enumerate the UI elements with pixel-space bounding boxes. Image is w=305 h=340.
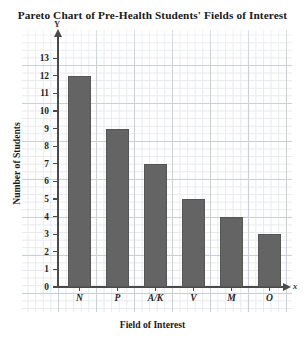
y-tick-mark xyxy=(53,110,58,111)
y-tick-label: 4 xyxy=(0,212,49,222)
x-tick-label: N xyxy=(60,292,100,303)
y-tick-label: 11 xyxy=(0,88,49,98)
bar xyxy=(68,76,91,287)
y-tick-mark xyxy=(53,198,58,199)
y-tick-label: 9 xyxy=(0,124,49,134)
bar xyxy=(106,129,129,287)
x-axis-line xyxy=(57,286,285,288)
x-axis-title: Field of Interest xyxy=(0,319,305,330)
x-tick-label: A/K xyxy=(136,292,176,303)
y-axis-line xyxy=(57,36,59,287)
y-axis-letter: Y xyxy=(54,19,60,29)
chart-figure: Pareto Chart of Pre-Health Students' Fie… xyxy=(0,0,305,340)
y-tick-mark xyxy=(53,269,58,270)
x-axis-arrow-icon xyxy=(283,283,291,291)
x-axis-letter: x xyxy=(293,281,297,291)
y-tick-mark xyxy=(53,163,58,164)
y-tick-label: 8 xyxy=(0,141,49,151)
y-tick-label: 3 xyxy=(0,229,49,239)
y-axis-arrow-icon xyxy=(54,29,62,37)
y-tick-mark xyxy=(53,93,58,94)
y-tick-label: 6 xyxy=(0,176,49,186)
bar xyxy=(258,234,281,287)
y-tick-mark xyxy=(53,286,58,287)
y-tick-label: 13 xyxy=(0,53,49,63)
y-tick-label: 12 xyxy=(0,71,49,81)
y-tick-mark xyxy=(53,251,58,252)
y-tick-mark xyxy=(53,181,58,182)
y-axis-title: Number of Students xyxy=(11,104,22,224)
y-tick-mark xyxy=(53,216,58,217)
y-tick-mark xyxy=(53,58,58,59)
x-tick-label: O xyxy=(250,292,290,303)
x-tick-label: P xyxy=(98,292,138,303)
y-tick-label: 5 xyxy=(0,194,49,204)
y-tick-mark xyxy=(53,75,58,76)
y-tick-label: 2 xyxy=(0,247,49,257)
x-tick-label: V xyxy=(174,292,214,303)
y-tick-label: 0 xyxy=(0,282,49,292)
bar xyxy=(144,164,167,287)
y-tick-mark xyxy=(53,234,58,235)
bar xyxy=(220,217,243,287)
chart-title: Pareto Chart of Pre-Health Students' Fie… xyxy=(0,9,305,21)
bar xyxy=(182,199,205,287)
y-tick-mark xyxy=(53,146,58,147)
x-tick-label: M xyxy=(212,292,252,303)
y-tick-label: 7 xyxy=(0,159,49,169)
y-tick-label: 10 xyxy=(0,106,49,116)
y-tick-mark xyxy=(53,128,58,129)
y-tick-label: 1 xyxy=(0,264,49,274)
